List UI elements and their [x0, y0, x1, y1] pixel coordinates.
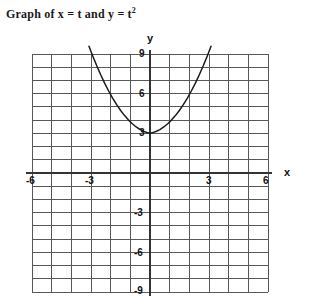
x-tick-3: 3: [206, 176, 212, 186]
y-tick-6: 6: [139, 89, 145, 99]
axes-lines: [26, 50, 272, 296]
y-tick-neg6: -6: [134, 248, 143, 258]
x-tick-neg6: -6: [26, 176, 35, 186]
y-tick-3: 3: [139, 128, 145, 138]
x-tick-neg3: -3: [85, 176, 94, 186]
y-tick-neg3: -3: [134, 208, 143, 218]
y-axis-label: y: [147, 33, 153, 44]
graph-plot: [0, 0, 312, 306]
x-axis-label: x: [284, 167, 290, 178]
y-tick-9: 9: [139, 49, 145, 59]
y-tick-neg9: -9: [134, 286, 143, 296]
x-tick-6: 6: [263, 176, 269, 186]
